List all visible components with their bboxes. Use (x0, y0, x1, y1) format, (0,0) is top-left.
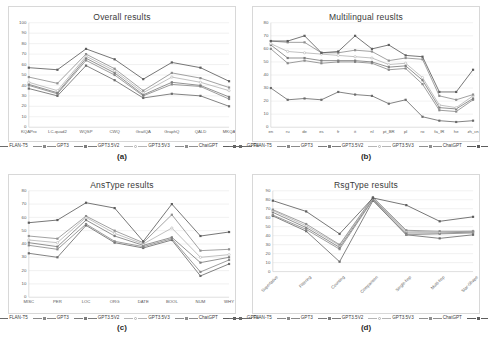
legend-marker (134, 145, 137, 148)
legend-line-swatch (47, 318, 56, 319)
legend-item-gpt3-5v3[interactable]: GPT3.5V3 (124, 316, 169, 321)
legend-item-gpt4[interactable]: GPT4 (467, 316, 488, 321)
legend-line-swatch (291, 318, 300, 319)
legend-line-swatch (291, 146, 300, 147)
legend-marker (185, 317, 188, 320)
legend-item-flan-t5[interactable]: FLAN-T5 (229, 316, 272, 321)
legend-marker (43, 317, 46, 320)
chart-legend-d: FLAN-T5GPT3GPT3.5V2GPT3.5V3ChatGPTGPT4 (250, 316, 482, 321)
svg-text:MISC: MISC (23, 299, 34, 304)
svg-text:WHY: WHY (224, 299, 234, 304)
chart-svg-a: 0102030405060708090100KQAProLC-quad2WQSP… (9, 7, 235, 141)
legend-line-swatch (88, 146, 97, 147)
legend-item-gpt3[interactable]: GPT3 (33, 144, 69, 149)
svg-text:LC-quad2: LC-quad2 (48, 129, 67, 134)
legend-line-swatch (0, 146, 8, 147)
chart-title-a: Overall results (9, 12, 235, 22)
legend-item-chatgpt[interactable]: ChatGPT (419, 144, 462, 149)
legend-marker (84, 145, 87, 148)
legend-item-flan-t5[interactable]: FLAN-T5 (0, 316, 28, 321)
legend-line-swatch (189, 146, 198, 147)
svg-text:70: 70 (264, 33, 269, 38)
legend-marker (429, 317, 432, 320)
svg-text:20: 20 (22, 268, 27, 273)
legend-item-gpt3-5v3[interactable]: GPT3.5V3 (124, 144, 169, 149)
legend-label: GPT3.5V2 (342, 316, 363, 321)
legend-line-swatch (277, 146, 286, 147)
legend-line-swatch (124, 318, 133, 319)
legend-label: GPT3.5V3 (392, 316, 413, 321)
legend-item-gpt3[interactable]: GPT3 (33, 316, 69, 321)
legend-line-swatch (138, 318, 147, 319)
svg-text:70: 70 (22, 201, 27, 206)
legend-marker (378, 145, 381, 148)
svg-text:BOOL: BOOL (166, 299, 178, 304)
chart-caption-d: (d) (361, 323, 371, 332)
legend-line-swatch (467, 318, 476, 319)
legend-marker (378, 317, 381, 320)
legend-label: GPT3.5V3 (148, 144, 169, 149)
legend-item-gpt3-5v2[interactable]: GPT3.5V2 (74, 316, 119, 321)
svg-text:20: 20 (266, 251, 271, 256)
legend-line-swatch (382, 146, 391, 147)
chart-legend-c: FLAN-T5GPT3GPT3.5V2GPT3.5V3ChatGPTGPT4 (6, 316, 238, 321)
legend-marker (239, 317, 242, 320)
svg-text:90: 90 (22, 30, 27, 35)
svg-text:WQSP: WQSP (80, 129, 93, 134)
svg-text:PER: PER (53, 299, 62, 304)
legend-label: GPT3.5V2 (342, 144, 363, 149)
legend-line-swatch (243, 318, 252, 319)
svg-text:de: de (302, 129, 307, 134)
legend-line-swatch (368, 146, 377, 147)
legend-item-gpt3[interactable]: GPT3 (277, 144, 313, 149)
svg-text:it: it (354, 129, 357, 134)
chart-svg-b: 01020304050607080enrudeesfritnlpt_BRplro… (253, 7, 479, 141)
svg-text:60: 60 (22, 215, 27, 220)
svg-text:es: es (319, 129, 323, 134)
legend-item-gpt4[interactable]: GPT4 (467, 144, 488, 149)
chart-panel-b: Multilingual reuslts 01020304050607080en… (244, 0, 488, 168)
svg-text:DATE: DATE (138, 299, 149, 304)
svg-text:60: 60 (22, 62, 27, 67)
legend-label: FLAN-T5 (253, 144, 272, 149)
svg-text:en: en (268, 129, 273, 134)
legend-item-flan-t5[interactable]: FLAN-T5 (0, 144, 28, 149)
legend-item-gpt3-5v2[interactable]: GPT3.5V2 (74, 144, 119, 149)
svg-text:20: 20 (22, 103, 27, 108)
legend-line-swatch (243, 146, 252, 147)
legend-item-gpt3-5v3[interactable]: GPT3.5V3 (368, 144, 413, 149)
legend-line-swatch (175, 146, 184, 147)
legend-item-gpt3[interactable]: GPT3 (277, 316, 313, 321)
legend-item-gpt3-5v2[interactable]: GPT3.5V2 (318, 144, 363, 149)
legend-label: FLAN-T5 (9, 144, 28, 149)
chart-title-d: RsgType results (253, 180, 479, 190)
legend-label: ChatGPT (199, 316, 218, 321)
svg-text:60: 60 (264, 46, 269, 51)
legend-marker (328, 317, 331, 320)
legend-line-swatch (33, 146, 42, 147)
legend-marker (134, 317, 137, 320)
legend-line-swatch (433, 146, 442, 147)
chart-panel-d: RsgType results 0102030405060708090Super… (244, 168, 488, 337)
legend-line-swatch (368, 318, 377, 319)
legend-item-flan-t5[interactable]: FLAN-T5 (229, 144, 272, 149)
legend-item-chatgpt[interactable]: ChatGPT (419, 316, 462, 321)
legend-item-chatgpt[interactable]: ChatGPT (175, 316, 218, 321)
legend-marker (477, 317, 480, 320)
svg-text:pl: pl (404, 129, 407, 134)
svg-text:KQAPro: KQAPro (21, 129, 37, 134)
legend-marker (185, 145, 188, 148)
svg-text:80: 80 (22, 41, 27, 46)
svg-text:40: 40 (266, 233, 271, 238)
legend-item-chatgpt[interactable]: ChatGPT (175, 144, 218, 149)
legend-line-swatch (382, 318, 391, 319)
legend-marker (239, 145, 242, 148)
legend-line-swatch (419, 146, 428, 147)
legend-item-gpt3-5v2[interactable]: GPT3.5V2 (318, 316, 363, 321)
chart-title-c: AnsType results (9, 180, 235, 190)
svg-text:30: 30 (264, 85, 269, 90)
legend-item-gpt3-5v3[interactable]: GPT3.5V3 (368, 316, 413, 321)
legend-label: GPT3 (57, 144, 69, 149)
legend-line-swatch (88, 318, 97, 319)
legend-line-swatch (419, 318, 428, 319)
